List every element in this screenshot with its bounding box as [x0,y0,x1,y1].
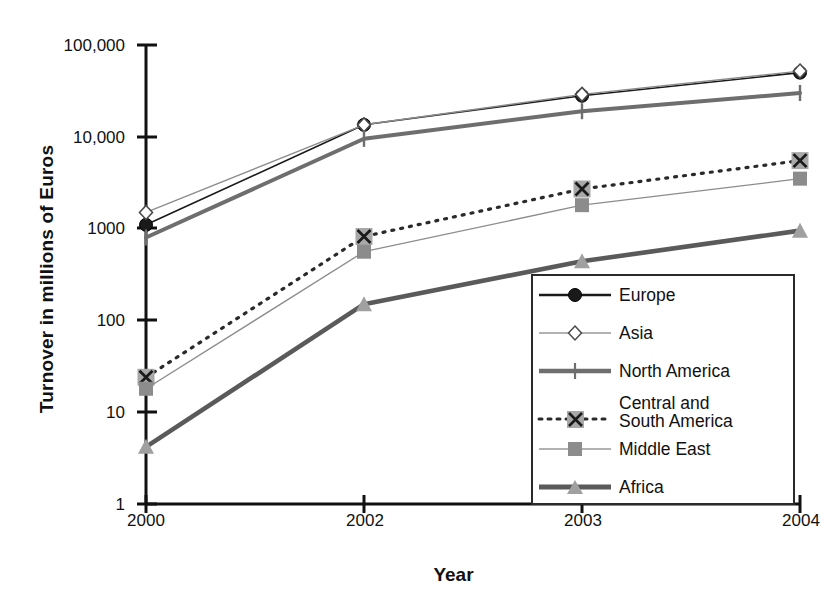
legend-item-north-america[interactable]: North America [533,356,797,386]
legend-label: Europe [617,286,675,305]
legend-swatch-africa [533,472,617,502]
chart-container: Turnover in millions of Euros 100,000 10… [0,0,837,606]
legend-item-middle-east[interactable]: Middle East [533,434,797,464]
legend-item-central-and-south-america[interactable]: Central and South America [533,390,797,434]
legend-item-africa[interactable]: Africa [533,472,797,502]
legend-swatch-north-america [533,356,617,386]
legend-swatch-europe [533,280,617,310]
legend-label: Africa [617,478,664,497]
legend-swatch-middle-east [533,434,617,464]
legend-item-asia[interactable]: Asia [533,318,797,348]
legend-item-europe[interactable]: Europe [533,280,797,310]
series-europe [140,66,807,231]
legend-swatch-asia [533,318,617,348]
legend: Europe Asia North America Central and So… [531,274,795,505]
legend-label: Central and South America [617,394,733,431]
legend-label: Middle East [617,440,710,459]
legend-label: Asia [617,324,653,343]
legend-label: North America [617,362,730,381]
legend-swatch-central-and-south-america [533,397,617,427]
